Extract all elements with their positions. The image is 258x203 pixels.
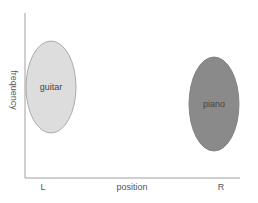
guitar-region: guitar (26, 41, 76, 133)
y-axis-label: frequency (9, 70, 19, 110)
x-axis-left-label: L (40, 182, 45, 192)
piano-label: piano (203, 99, 225, 109)
guitar-label: guitar (40, 82, 63, 92)
position-frequency-diagram: guitar piano frequency L position R (0, 0, 258, 203)
x-axis-right-label: R (218, 182, 225, 192)
x-axis-label: position (116, 182, 147, 192)
piano-region: piano (189, 57, 239, 151)
